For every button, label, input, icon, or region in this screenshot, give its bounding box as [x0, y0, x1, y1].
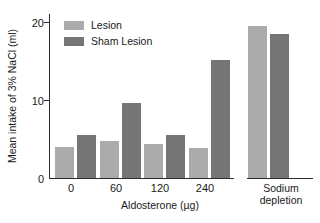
x-group-label-sodium-line2: depletion — [245, 194, 317, 206]
y-tick-label-20: 20 — [18, 18, 44, 28]
legend-item-lesion: Lesion — [64, 18, 152, 32]
bar-chart-figure: Mean intake of 3% NaCl (ml) 20 10 0 0 60… — [0, 0, 320, 223]
bar-lesion-60 — [100, 141, 119, 178]
legend: Lesion Sham Lesion — [64, 18, 152, 50]
x-tick-label-60: 60 — [96, 182, 136, 194]
bar-sham-lesion-240 — [211, 60, 230, 178]
bar-sham-lesion-0 — [77, 135, 96, 178]
x-group-label-sodium-depletion: Sodium depletion — [245, 182, 317, 206]
x-axis-line-main — [49, 178, 234, 179]
x-tick-label-120: 120 — [140, 182, 180, 194]
bar-lesion-120 — [144, 144, 163, 178]
bar-lesion-240 — [189, 148, 208, 178]
x-axis-title: Aldosterone (µg) — [80, 199, 240, 211]
x-tick-label-240: 240 — [185, 182, 225, 194]
legend-swatch-lesion — [64, 21, 84, 30]
bar-lesion-sodium-depletion — [248, 26, 267, 178]
legend-label-sham-lesion: Sham Lesion — [91, 35, 152, 47]
bar-sham-lesion-60 — [122, 103, 141, 178]
legend-item-sham-lesion: Sham Lesion — [64, 34, 152, 48]
x-tick-label-0: 0 — [51, 182, 91, 194]
legend-label-lesion: Lesion — [91, 19, 122, 31]
legend-swatch-sham-lesion — [64, 37, 84, 46]
bar-lesion-0 — [55, 147, 74, 178]
bar-sham-lesion-sodium-depletion — [270, 34, 289, 178]
y-tick-label-0: 0 — [18, 174, 44, 184]
y-tick-label-10: 10 — [18, 96, 44, 106]
x-group-label-sodium-line1: Sodium — [245, 182, 317, 194]
x-axis-line-sodium — [247, 178, 313, 179]
bar-sham-lesion-120 — [166, 135, 185, 178]
